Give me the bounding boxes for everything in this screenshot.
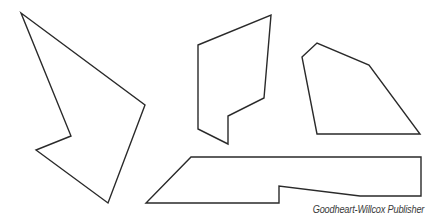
irregular-polygon-left xyxy=(21,13,145,203)
irregular-polygon-right xyxy=(302,43,420,134)
irregular-polygon-bottom xyxy=(146,157,421,203)
publisher-credit: Goodheart-Willcox Publisher xyxy=(312,204,424,215)
polygon-figure xyxy=(0,0,443,224)
irregular-polygon-middle xyxy=(198,15,271,144)
